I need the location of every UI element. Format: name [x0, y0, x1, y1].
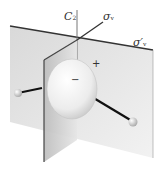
sigma-v-label-sub: v: [111, 14, 114, 21]
hydrogen-atom-right: [129, 118, 138, 127]
c2-axis-label: C2: [64, 11, 76, 22]
sigma-v-prime-label: σ′v: [133, 37, 146, 48]
sigma-v-prime-label-sub: v: [143, 40, 146, 47]
positive-sign: +: [92, 59, 100, 69]
hydrogen-atom-left: [14, 89, 22, 97]
sigma-v-prime-label-main: σ′: [133, 36, 143, 49]
symmetry-diagram: [0, 0, 161, 172]
oxygen-orbital: [47, 59, 97, 119]
sigma-v-label-main: σ: [103, 10, 111, 23]
negative-sign: −: [71, 75, 79, 85]
sigma-v-label: σv: [103, 11, 114, 22]
c2-label-sub: 2: [72, 14, 76, 21]
